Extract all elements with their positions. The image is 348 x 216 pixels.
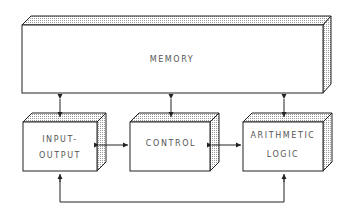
memory-label: MEMORY: [150, 55, 195, 64]
control-label: CONTROL: [146, 139, 196, 148]
arithmetic-label-line1: ARITHMETIC: [250, 131, 315, 140]
input-output-label-line2: OUTPUT: [39, 151, 81, 160]
input-output-block: INPUT- OUTPUT: [23, 113, 106, 171]
input-output-label-line1: INPUT-: [42, 135, 78, 144]
computer-architecture-diagram: MEMORY INPUT- OUTPUT CONTROL ARITHMETIC …: [0, 0, 348, 216]
bottom-loop-connector: [60, 174, 284, 202]
arithmetic-label-line2: LOGIC: [267, 150, 300, 159]
memory-block: MEMORY: [22, 16, 331, 93]
control-block: CONTROL: [130, 113, 219, 171]
arithmetic-logic-block: ARITHMETIC LOGIC: [243, 113, 332, 171]
